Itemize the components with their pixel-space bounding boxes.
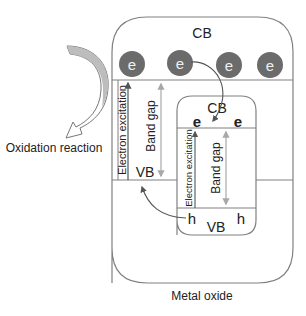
outer-cb-label: CB [192,25,211,41]
outer-electron-3: e [216,52,242,78]
outer-electron-1: e [119,51,145,77]
inner-cb-label: CB [207,100,226,116]
oxidation-arrow [66,46,108,138]
inner-excitation-label: Electron excitation [183,129,194,207]
oxidation-reaction-label: Oxidation reaction [6,141,103,155]
inner-band-gap-label: Band gap [209,142,223,194]
electron-label: e [225,57,233,74]
outer-electron-2: e [167,50,193,76]
metal-oxide-caption: Metal oxide [171,289,233,303]
inner-electron-1: e [193,113,201,130]
outer-vb-label: VB [136,164,155,180]
oxidation-arrow-body [66,46,108,138]
electron-label: e [128,56,136,73]
inner-hole-2: h [237,210,245,227]
outer-electron-4: e [257,52,283,78]
inner-semiconductor: CB VB e e h h Electron excitation Band g… [177,96,256,235]
electron-label: e [266,57,274,74]
outer-excitation-label: Electron excitation [116,85,128,175]
inner-vb-label: VB [207,219,226,235]
inner-hole-1: h [188,210,196,227]
outer-band-gap-label: Band gap [144,100,158,152]
inner-electron-2: e [234,113,242,130]
electron-label: e [176,55,184,72]
photocatalysis-band-diagram: CB VB e e e e Electron excitation Band g… [0,0,306,316]
